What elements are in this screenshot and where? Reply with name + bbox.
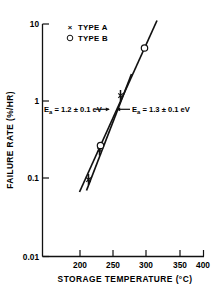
ea-b-rest: = 1.3 ± 0.1 eV bbox=[140, 105, 190, 114]
x-axis-ticks bbox=[80, 250, 204, 257]
annotation-ea-type-a-text: Ea = 1.2 ± 0.1 eV bbox=[44, 105, 103, 115]
ea-a-rest: = 1.2 ± 0.1 eV bbox=[52, 105, 102, 114]
y-tick-label-0.01: 0.01 bbox=[23, 252, 40, 262]
x-axis-title: STORAGE TEMPERATURE (°C) bbox=[58, 274, 193, 284]
x-tick-label-200: 200 bbox=[73, 260, 87, 270]
x-tick-label-250: 250 bbox=[106, 260, 120, 270]
legend-label-type-b: TYPE B bbox=[78, 34, 108, 43]
y-tick-label-10: 10 bbox=[30, 19, 40, 29]
data-point-type-b bbox=[141, 45, 147, 51]
x-axis-tick-labels: 200 250 300 350 400 bbox=[73, 260, 210, 270]
x-tick-label-350: 350 bbox=[173, 260, 187, 270]
chart-canvas: 10 1 0.1 0.01 200 250 300 350 400 STORAG… bbox=[0, 0, 222, 291]
figure-arrhenius-failure-rate: 10 1 0.1 0.01 200 250 300 350 400 STORAG… bbox=[0, 0, 222, 291]
annotation-ea-type-b: Ea = 1.3 ± 0.1 eV bbox=[116, 105, 191, 115]
data-point-type-b bbox=[97, 142, 103, 148]
legend-label-type-a: TYPE A bbox=[78, 23, 108, 32]
y-axis-ticks bbox=[43, 24, 50, 257]
legend-marker-type-b bbox=[67, 35, 73, 41]
legend: × TYPE A TYPE B bbox=[67, 23, 108, 43]
axis-lines bbox=[43, 24, 205, 257]
x-tick-label-400: 400 bbox=[196, 260, 210, 270]
y-tick-label-0.1: 0.1 bbox=[27, 173, 39, 183]
x-tick-label-300: 300 bbox=[139, 260, 153, 270]
y-axis-tick-labels: 10 1 0.1 0.01 bbox=[23, 19, 40, 262]
y-axis-title: FAILURE RATE (%/HR) bbox=[5, 91, 15, 189]
annotation-ea-type-a: Ea = 1.2 ± 0.1 eV bbox=[44, 105, 110, 115]
annotation-ea-type-b-text: Ea = 1.3 ± 0.1 eV bbox=[132, 105, 191, 115]
y-tick-label-1: 1 bbox=[34, 96, 39, 106]
legend-marker-type-a: × bbox=[68, 23, 73, 32]
